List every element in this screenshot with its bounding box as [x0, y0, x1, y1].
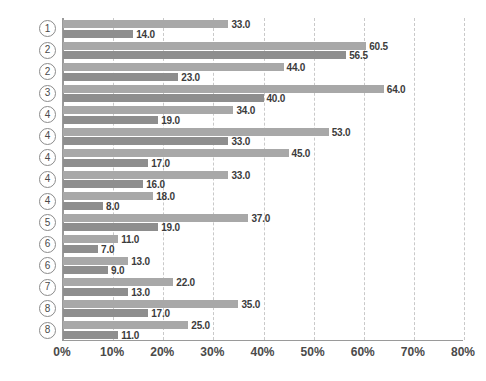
- bar-series-a[interactable]: 33.0: [63, 171, 464, 179]
- bar-value-label: 56.5: [349, 50, 368, 61]
- bar-value-label: 18.0: [156, 191, 175, 202]
- bar-fill: [63, 278, 173, 286]
- x-tick-label-30: 30%: [200, 345, 224, 359]
- bar-series-a[interactable]: 33.0: [63, 20, 464, 28]
- bar-series-b[interactable]: 19.0: [63, 223, 464, 231]
- bar-value-label: 40.0: [267, 93, 286, 104]
- x-tick-label-20: 20%: [150, 345, 174, 359]
- bar-fill: [63, 42, 366, 50]
- bar-fill: [63, 223, 158, 231]
- bar-value-label: 64.0: [387, 83, 406, 94]
- bar-fill: [63, 51, 346, 59]
- circled-number-icon: 4: [39, 193, 56, 210]
- bar-value-label: 19.0: [161, 222, 180, 233]
- x-tick-label-50: 50%: [301, 345, 325, 359]
- y-axis-category-4: 4: [0, 104, 56, 126]
- circled-number-icon: 2: [39, 63, 56, 80]
- circled-number-icon: 8: [39, 322, 56, 339]
- bar-value-label: 8.0: [106, 200, 119, 211]
- bar-series-b[interactable]: 11.0: [63, 331, 464, 339]
- circled-number-icon: 4: [39, 128, 56, 145]
- bar-value-label: 53.0: [332, 126, 351, 137]
- circled-number-icon: 4: [39, 106, 56, 123]
- bar-value-label: 7.0: [101, 243, 114, 254]
- bar-series-b[interactable]: 8.0: [63, 202, 464, 210]
- bar-row: 33.014.0: [63, 18, 463, 40]
- bar-series-b[interactable]: 14.0: [63, 30, 464, 38]
- bar-row: 11.07.0: [63, 233, 463, 255]
- bar-series-b[interactable]: 17.0: [63, 159, 464, 167]
- y-axis-category-2: 2: [0, 61, 56, 83]
- bar-row: 13.09.0: [63, 255, 463, 277]
- y-axis-category-8: 4: [0, 190, 56, 212]
- bar-series-a[interactable]: 45.0: [63, 149, 464, 157]
- bar-series-b[interactable]: 7.0: [63, 245, 464, 253]
- bar-series-a[interactable]: 37.0: [63, 214, 464, 222]
- bar-value-label: 13.0: [131, 255, 150, 266]
- bar-series-a[interactable]: 13.0: [63, 257, 464, 265]
- y-axis-category-10: 6: [0, 233, 56, 255]
- bar-value-label: 33.0: [231, 19, 250, 30]
- bar-row: 44.023.0: [63, 61, 463, 83]
- bar-fill: [63, 180, 143, 188]
- bar-value-label: 23.0: [181, 71, 200, 82]
- bar-value-label: 34.0: [236, 105, 255, 116]
- bar-fill: [63, 321, 188, 329]
- bar-value-label: 14.0: [136, 28, 155, 39]
- bar-series-a[interactable]: 53.0: [63, 128, 464, 136]
- bar-row: 22.013.0: [63, 276, 463, 298]
- bar-series-a[interactable]: 60.5: [63, 42, 464, 50]
- bar-fill: [63, 202, 103, 210]
- bar-series-b[interactable]: 33.0: [63, 137, 464, 145]
- bar-fill: [63, 128, 329, 136]
- bar-series-a[interactable]: 22.0: [63, 278, 464, 286]
- circled-number-icon: 6: [39, 236, 56, 253]
- bar-value-label: 25.0: [191, 320, 210, 331]
- bar-fill: [63, 116, 158, 124]
- circled-number-icon: 4: [39, 171, 56, 188]
- bar-fill: [63, 214, 248, 222]
- bar-series-a[interactable]: 35.0: [63, 300, 464, 308]
- bar-series-b[interactable]: 13.0: [63, 288, 464, 296]
- bar-series-b[interactable]: 16.0: [63, 180, 464, 188]
- bar-fill: [63, 20, 228, 28]
- bar-series-a[interactable]: 18.0: [63, 192, 464, 200]
- bar-series-a[interactable]: 44.0: [63, 63, 464, 71]
- y-axis-category-9: 5: [0, 212, 56, 234]
- circled-number-icon: 7: [39, 279, 56, 296]
- y-axis-category-1: 2: [0, 40, 56, 62]
- bar-series-b[interactable]: 19.0: [63, 116, 464, 124]
- bar-series-b[interactable]: 23.0: [63, 73, 464, 81]
- bar-value-label: 9.0: [111, 265, 124, 276]
- bar-fill: [63, 288, 128, 296]
- y-axis-category-11: 6: [0, 255, 56, 277]
- bar-row: 34.019.0: [63, 104, 463, 126]
- bar-chart: 33.014.060.556.544.023.064.040.034.019.0…: [0, 0, 486, 381]
- bar-series-b[interactable]: 56.5: [63, 51, 464, 59]
- bar-value-label: 44.0: [287, 62, 306, 73]
- y-axis-category-12: 7: [0, 276, 56, 298]
- bar-fill: [63, 73, 178, 81]
- bar-rows: 33.014.060.556.544.023.064.040.034.019.0…: [63, 18, 463, 340]
- bar-series-b[interactable]: 17.0: [63, 309, 464, 317]
- bar-fill: [63, 85, 384, 93]
- bar-value-label: 17.0: [151, 157, 170, 168]
- bar-series-a[interactable]: 64.0: [63, 85, 464, 93]
- bar-series-a[interactable]: 34.0: [63, 106, 464, 114]
- y-axis-category-3: 3: [0, 83, 56, 105]
- bar-row: 18.08.0: [63, 190, 463, 212]
- bar-row: 60.556.5: [63, 40, 463, 62]
- bar-series-a[interactable]: 11.0: [63, 235, 464, 243]
- bar-series-b[interactable]: 40.0: [63, 94, 464, 102]
- bar-value-label: 35.0: [241, 298, 260, 309]
- bar-value-label: 16.0: [146, 179, 165, 190]
- bar-fill: [63, 309, 148, 317]
- bar-value-label: 33.0: [231, 169, 250, 180]
- plot-area: 33.014.060.556.544.023.064.040.034.019.0…: [62, 18, 463, 341]
- bar-series-a[interactable]: 25.0: [63, 321, 464, 329]
- bar-series-b[interactable]: 9.0: [63, 266, 464, 274]
- bar-fill: [63, 257, 128, 265]
- bar-fill: [63, 235, 118, 243]
- bar-fill: [63, 106, 233, 114]
- bar-fill: [63, 331, 118, 339]
